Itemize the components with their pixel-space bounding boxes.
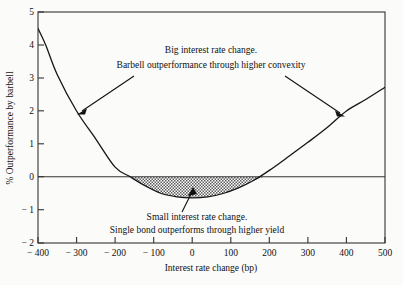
x-tick-label: 100 xyxy=(224,248,239,258)
x-tick-label: − 300 xyxy=(66,248,88,258)
x-tick-label: 200 xyxy=(262,248,277,258)
x-tick-label: − 400 xyxy=(27,248,49,258)
x-tick-label: − 100 xyxy=(143,248,165,258)
annotation-lower-line1: Small interest rate change. xyxy=(147,212,248,222)
x-tick-label: 0 xyxy=(190,248,195,258)
y-tick-label: 1 xyxy=(29,139,34,149)
x-tick-label: 400 xyxy=(339,248,354,258)
y-tick-label: − 1 xyxy=(22,205,35,215)
chart-figure: 5 4 3 2 1 0 − 1 − 2 − 400 − 300 − 200 xyxy=(0,0,403,285)
x-axis-title: Interest rate change (bp) xyxy=(165,263,258,274)
figure-background xyxy=(0,0,403,285)
y-tick-label: 4 xyxy=(29,40,34,50)
x-tick-label: 300 xyxy=(301,248,316,258)
chart-canvas: 5 4 3 2 1 0 − 1 − 2 − 400 − 300 − 200 xyxy=(0,0,403,285)
y-tick-label: − 2 xyxy=(22,238,35,248)
y-tick-label: 2 xyxy=(29,106,34,116)
y-tick-label: 0 xyxy=(29,172,34,182)
annotation-upper-line2: Barbell outperformance through higher co… xyxy=(117,60,306,70)
annotation-lower-line2: Single bond outperforms through higher y… xyxy=(110,225,285,235)
y-tick-label: 5 xyxy=(29,7,34,17)
annotation-upper-line1: Big interest rate change. xyxy=(165,45,257,55)
x-tick-label: 500 xyxy=(378,248,393,258)
y-axis-title: % Outperformance by barbell xyxy=(5,71,15,185)
x-tick-label: − 200 xyxy=(104,248,126,258)
y-tick-label: 3 xyxy=(29,73,34,83)
